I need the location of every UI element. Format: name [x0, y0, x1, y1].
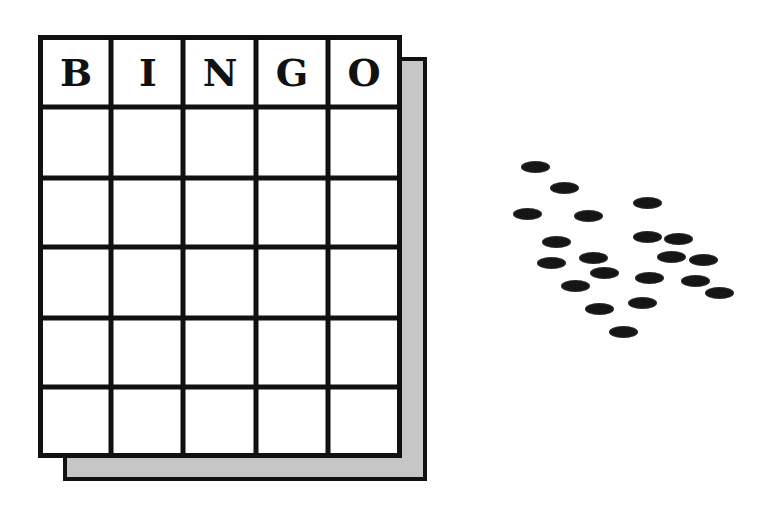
- bingo-chip: [657, 251, 686, 263]
- bingo-chip: [513, 208, 542, 220]
- bingo-chip: [542, 236, 571, 248]
- bingo-chip: [689, 254, 718, 266]
- bingo-grid-lines: [38, 35, 402, 458]
- header-letter-n: N: [186, 53, 254, 93]
- header-letter-g: G: [258, 53, 326, 93]
- header-letter-o: O: [330, 53, 398, 93]
- bingo-card: B I N G O: [38, 35, 402, 458]
- bingo-chip: [550, 182, 579, 194]
- bingo-chip: [561, 280, 590, 292]
- bingo-chip: [635, 272, 664, 284]
- header-letter-i: I: [114, 53, 182, 93]
- bingo-chip: [537, 257, 566, 269]
- bingo-chip: [579, 252, 608, 264]
- bingo-chip: [585, 303, 614, 315]
- bingo-chip: [590, 267, 619, 279]
- bingo-illustration: B I N G O: [0, 0, 768, 506]
- bingo-chip: [609, 326, 638, 338]
- bingo-chip: [681, 275, 710, 287]
- bingo-chip: [521, 161, 550, 173]
- bingo-chip: [664, 233, 693, 245]
- bingo-chip: [628, 297, 657, 309]
- bingo-chip: [705, 287, 734, 299]
- bingo-chip: [633, 231, 662, 243]
- bingo-chip: [633, 197, 662, 209]
- header-letter-b: B: [42, 53, 110, 93]
- bingo-chip: [574, 210, 603, 222]
